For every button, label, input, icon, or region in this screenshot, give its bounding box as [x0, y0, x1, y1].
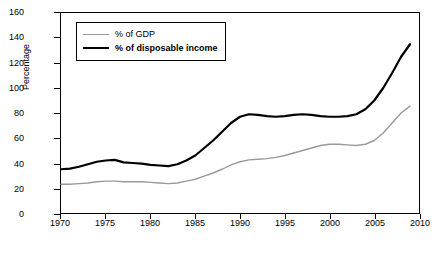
x-tick-label: 1975: [85, 218, 125, 228]
x-tick-label: 1980: [130, 218, 170, 228]
legend-item: % of disposable income: [83, 41, 218, 55]
y-tick-label: 140: [0, 32, 24, 42]
x-tick-label: 1990: [220, 218, 260, 228]
legend-swatch: [83, 34, 109, 35]
x-tick-mark: [240, 214, 241, 219]
x-tick-mark: [195, 214, 196, 219]
y-tick-label: 120: [0, 58, 24, 68]
x-tick-label: 2000: [310, 218, 350, 228]
y-tick-label: 100: [0, 83, 24, 93]
series-line-0: [61, 106, 410, 184]
x-tick-label: 1970: [40, 218, 80, 228]
x-tick-mark: [105, 214, 106, 219]
legend-label: % of GDP: [115, 29, 155, 39]
y-tick-label: 160: [0, 7, 24, 17]
x-tick-label: 2010: [400, 218, 440, 228]
x-tick-mark: [150, 214, 151, 219]
y-tick-label: 60: [0, 133, 24, 143]
y-tick-label: 0: [0, 209, 24, 219]
x-tick-mark: [375, 214, 376, 219]
y-tick-label: 80: [0, 108, 24, 118]
legend-swatch: [83, 47, 109, 49]
y-tick-label: 20: [0, 184, 24, 194]
x-tick-label: 2005: [355, 218, 395, 228]
x-tick-label: 1995: [265, 218, 305, 228]
x-tick-mark: [420, 214, 421, 219]
series-line-1: [61, 44, 410, 169]
x-tick-mark: [60, 214, 61, 219]
x-tick-label: 1985: [175, 218, 215, 228]
y-tick-label: 40: [0, 159, 24, 169]
legend-item: % of GDP: [83, 27, 218, 41]
x-tick-mark: [285, 214, 286, 219]
legend-label: % of disposable income: [115, 43, 218, 53]
chart-container: Percentage 020406080100120140160 1970197…: [0, 0, 448, 266]
x-tick-mark: [330, 214, 331, 219]
legend: % of GDP% of disposable income: [76, 22, 226, 61]
